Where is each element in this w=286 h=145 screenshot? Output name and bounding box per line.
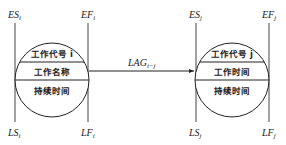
work-code-i: 工作代号 i (31, 49, 73, 59)
ef-j: EFj (261, 9, 276, 22)
node-i: 工作代号 i 工作名称 持续时间 ESi EFi LSi LFi (7, 9, 95, 140)
lag-label: LAGi−j (127, 57, 156, 70)
network-diagram: 工作代号 i 工作名称 持续时间 ESi EFi LSi LFi LAGi−j … (0, 0, 286, 145)
lf-j: LFj (261, 127, 276, 140)
ef-i: EFi (80, 9, 95, 22)
work-code-j: 工作代号 j (211, 49, 253, 59)
duration-j: 持续时间 (214, 86, 250, 96)
work-name-i: 工作名称 (34, 67, 70, 77)
duration-i: 持续时间 (34, 86, 70, 96)
es-j: ESj (188, 9, 202, 22)
node-j: 工作代号 j 工作时间 持续时间 ESj EFj LSj LFj (188, 9, 276, 140)
work-time-j: 工作时间 (214, 67, 250, 77)
lf-i: LFi (80, 127, 95, 140)
es-i: ESi (7, 9, 21, 22)
ls-i: LSi (7, 127, 21, 140)
lag-link: LAGi−j (89, 57, 194, 71)
ls-j: LSj (188, 127, 202, 140)
